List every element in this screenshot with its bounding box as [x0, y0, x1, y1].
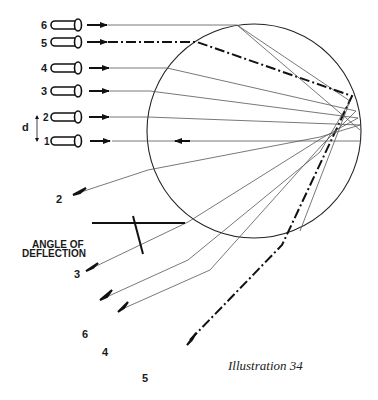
ray-4 [110, 68, 356, 310]
exit-label-5: 5 [142, 372, 148, 384]
exit-label-3: 3 [74, 268, 80, 280]
illustration-caption: Illustration 34 [227, 358, 303, 373]
exit-label-2: 2 [56, 193, 62, 205]
gun-label-6: 6 [41, 19, 47, 31]
gun-6 [51, 19, 82, 31]
gun-label-4: 4 [41, 62, 48, 74]
ray-6 [100, 25, 350, 300]
gun-label-2: 2 [43, 112, 49, 123]
ray-6-inner [237, 25, 360, 130]
gun-group [51, 19, 82, 147]
ray-2 [75, 117, 360, 194]
distance-label: d [22, 121, 29, 133]
exit-label-6: 6 [82, 328, 88, 340]
gun-label-5: 5 [41, 37, 47, 49]
gun-1 [51, 135, 82, 147]
gun-5 [51, 36, 82, 48]
launch-arrows [87, 25, 110, 141]
gun-label-3: 3 [41, 85, 47, 97]
gun-label-1: 1 [44, 136, 50, 147]
deflection-arc [133, 216, 143, 254]
angle-label-line2: DEFLECTION [22, 248, 86, 259]
gun-3 [51, 85, 82, 97]
gun-4 [51, 62, 82, 74]
scattering-diagram: 6 5 4 3 2 1 d ANGLE OF DEFLECTION 2 3 6 … [0, 0, 378, 400]
exit-label-4: 4 [102, 346, 109, 358]
gun-2 [51, 111, 82, 123]
ray-3 [88, 91, 358, 270]
